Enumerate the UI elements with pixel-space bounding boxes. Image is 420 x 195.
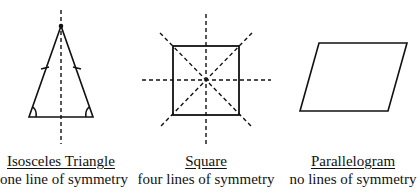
triangle-caption: one line of symmetry [0, 170, 122, 188]
tick-mark-left [41, 67, 49, 69]
parallelogram-caption: no lines of symmetry [286, 170, 420, 188]
triangle-label: Isosceles Triangle one line of symmetry [0, 152, 122, 188]
parallelogram-label: Parallelogram no lines of symmetry [286, 152, 420, 188]
square [142, 14, 271, 146]
parallelogram [300, 43, 407, 111]
isosceles-triangle [29, 10, 93, 144]
parallelogram-title: Parallelogram [286, 152, 420, 170]
square-label: Square four lines of symmetry [136, 152, 276, 188]
angle-arc-left [33, 107, 36, 117]
square-title: Square [136, 152, 276, 170]
angle-arc-right [86, 107, 89, 117]
triangle-title: Isosceles Triangle [0, 152, 122, 170]
tick-mark-right [73, 67, 81, 69]
square-caption: four lines of symmetry [136, 170, 276, 188]
